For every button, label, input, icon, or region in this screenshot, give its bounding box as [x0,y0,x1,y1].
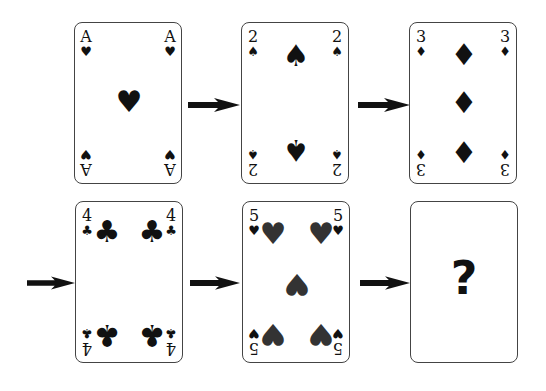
heart-icon: ♥ [284,269,311,299]
club-icon: ♣ [94,320,121,350]
corner-index: 4♣ [80,327,94,356]
diamond-icon: ♦ [451,40,478,70]
card-unknown: ? [410,201,518,363]
spade-icon: ♠ [247,148,259,161]
club-icon: ♣ [165,327,177,340]
card-two-of-spades: 2♠ 2♠ 2♠ 2♠ ♠ ♠ [241,22,349,184]
corner-index: 2♠ [246,148,260,177]
card-four-of-clubs: 4♣ 4♣ 4♣ 4♣ ♣ ♣ ♣ ♣ [75,201,183,363]
club-icon: ♣ [139,217,166,247]
arrow-right-icon [358,98,410,112]
heart-icon: ♥ [260,219,287,249]
corner-index: 2♠ [246,29,260,58]
diamond-icon: ♦ [415,45,427,58]
corner-index: A♥ [79,148,93,177]
card-three-of-diamonds: 3♦ 3♦ 3♦ 3♦ ♦ ♦ ♦ [409,22,517,184]
heart-icon: ♥ [80,148,92,161]
diamond-icon: ♦ [499,45,511,58]
heart-icon: ♥ [308,219,335,249]
spade-icon: ♠ [283,41,310,71]
arrow-right-icon [188,98,240,112]
heart-icon: ♥ [308,319,335,349]
heart-icon: ♥ [164,45,176,58]
heart-icon: ♥ [260,319,287,349]
corner-index: 4♣ [164,327,178,356]
heart-icon: ♥ [116,87,143,117]
diamond-icon: ♦ [415,148,427,161]
arrow-right-icon [27,276,75,290]
corner-index: 4♣ [164,208,178,237]
club-icon: ♣ [165,224,177,237]
spade-icon: ♠ [331,45,343,58]
heart-icon: ♥ [164,148,176,161]
arrow-right-icon [360,276,410,290]
card-five-of-hearts: 5♥ 5♥ 5♥ 5♥ ♥ ♥ ♥ ♥ ♥ [242,201,350,363]
club-icon: ♣ [81,224,93,237]
diamond-icon: ♦ [451,138,478,168]
corner-index: 3♦ [498,29,512,58]
corner-index: 4♣ [80,208,94,237]
club-icon: ♣ [81,327,93,340]
diamond-icon: ♦ [499,148,511,161]
diamond-icon: ♦ [451,88,478,118]
arrow-right-icon [190,276,240,290]
heart-icon: ♥ [248,224,260,237]
spade-icon: ♠ [331,148,343,161]
corner-index: 2♠ [330,29,344,58]
question-mark: ? [451,251,478,305]
corner-index: A♥ [163,148,177,177]
club-icon: ♣ [139,320,166,350]
spade-icon: ♠ [283,135,310,165]
corner-index: 3♦ [498,148,512,177]
corner-index: 2♠ [330,148,344,177]
heart-icon: ♥ [248,327,260,340]
corner-index: A♥ [79,29,93,58]
heart-icon: ♥ [80,45,92,58]
card-ace-of-hearts: A♥ A♥ A♥ A♥ ♥ [74,22,182,184]
spade-icon: ♠ [247,45,259,58]
corner-index: 3♦ [414,148,428,177]
corner-index: 3♦ [414,29,428,58]
corner-index: A♥ [163,29,177,58]
club-icon: ♣ [94,217,121,247]
